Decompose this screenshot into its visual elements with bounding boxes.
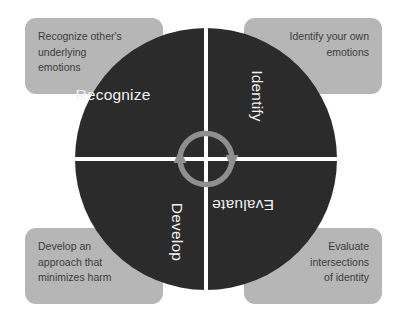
wheel-label-evaluate: Evaluate: [212, 196, 274, 214]
callout-line: Identify your own: [257, 29, 369, 45]
diagram-canvas: Recognize other's underlying emotions Id…: [0, 0, 407, 319]
callout-line: minimizes harm: [38, 270, 150, 286]
wheel-label-recognize: Recognize: [75, 86, 150, 104]
wheel-divider-horizontal: [75, 157, 337, 161]
wheel-label-identify: Identify: [248, 70, 266, 122]
cycle-wheel: [75, 28, 337, 290]
wheel-label-develop: Develop: [168, 203, 186, 261]
callout-line: Recognize other's: [38, 29, 150, 45]
callout-line: of identity: [257, 270, 369, 286]
